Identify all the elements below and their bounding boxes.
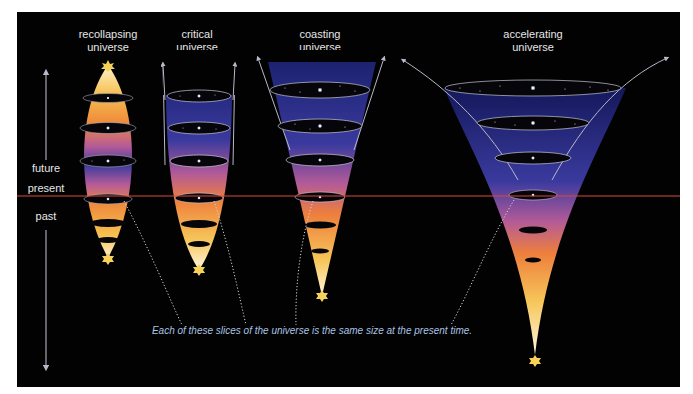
accelerating-universe-shape [403,58,667,367]
coasting-universe-shape [258,50,384,302]
past-label: past [36,210,57,222]
title-recollapsing: recollapsing universe [79,28,138,53]
big-bang-star-icon [193,264,205,276]
title-critical: critical universe [176,28,218,53]
present-label: present [28,182,65,194]
svg-text:universe: universe [512,41,554,53]
title-coasting: coasting universe [299,28,341,53]
big-bang-star-icon [529,355,541,367]
universe-expansion-diagram: recollapsing universe critical universe … [0,0,693,394]
svg-text:accelerating: accelerating [503,28,562,40]
title-accelerating: accelerating universe [503,28,562,53]
caption: Each of these slices of the universe is … [152,325,472,336]
big-bang-star-icon [316,290,328,302]
big-crunch-star-icon [101,60,115,72]
svg-text:recollapsing: recollapsing [79,28,138,40]
recollapsing-universe-shape [80,60,136,265]
svg-text:coasting: coasting [300,28,341,40]
future-label: future [32,162,60,174]
big-bang-star-icon [102,253,114,265]
time-axis: future present past [28,72,65,368]
svg-text:universe: universe [87,41,129,53]
svg-text:critical: critical [181,28,212,40]
